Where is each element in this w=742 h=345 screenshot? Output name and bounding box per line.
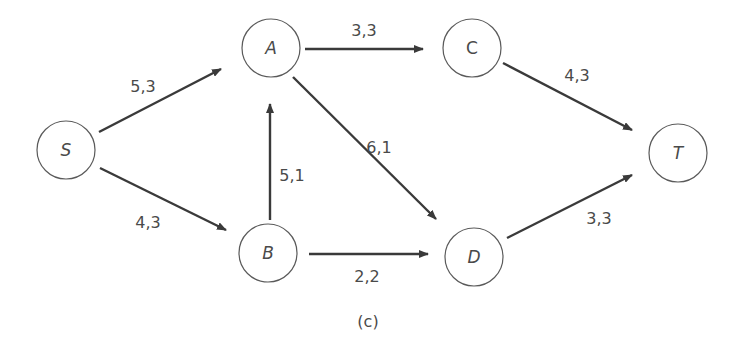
edge-a-d: 6,1 — [293, 77, 436, 219]
edge-label: 6,1 — [366, 138, 391, 157]
node-label: A — [264, 38, 277, 58]
node-t: T — [649, 124, 707, 182]
edge-c-t: 4,3 — [503, 63, 632, 130]
edge-label: 2,2 — [354, 267, 379, 286]
flow-network-diagram: 5,34,35,13,36,12,24,33,3 SABCDT (c) — [0, 0, 742, 345]
node-c: C — [443, 19, 501, 77]
edge-s-b: 4,3 — [100, 168, 226, 232]
edge-label: 3,3 — [586, 209, 611, 228]
edge-label: 3,3 — [351, 21, 376, 40]
node-label: C — [466, 38, 478, 58]
edge-a-c: 3,3 — [305, 21, 423, 50]
node-a: A — [242, 19, 300, 77]
diagram-canvas: 5,34,35,13,36,12,24,33,3 SABCDT (c) — [0, 0, 742, 345]
edge-s-a: 5,3 — [99, 69, 221, 132]
node-label: D — [467, 247, 480, 267]
edge-label: 4,3 — [564, 66, 589, 85]
node-label: B — [262, 243, 274, 263]
figure-caption: (c) — [357, 312, 378, 331]
edge-d-t: 3,3 — [507, 175, 632, 238]
edge-b-a: 5,1 — [270, 104, 305, 220]
edge-label: 5,1 — [279, 166, 304, 185]
edge-label: 4,3 — [135, 213, 160, 232]
edge-label: 5,3 — [130, 77, 155, 96]
node-s: S — [37, 121, 95, 179]
arrow-icon — [100, 168, 226, 230]
edge-b-d: 2,2 — [309, 254, 428, 286]
arrow-icon — [507, 175, 632, 238]
node-d: D — [445, 228, 503, 286]
edges-layer: 5,34,35,13,36,12,24,33,3 — [99, 21, 632, 286]
node-b: B — [239, 224, 297, 282]
arrow-icon — [99, 69, 221, 132]
arrow-icon — [293, 77, 436, 219]
node-label: S — [61, 140, 72, 160]
node-label: T — [673, 143, 685, 163]
